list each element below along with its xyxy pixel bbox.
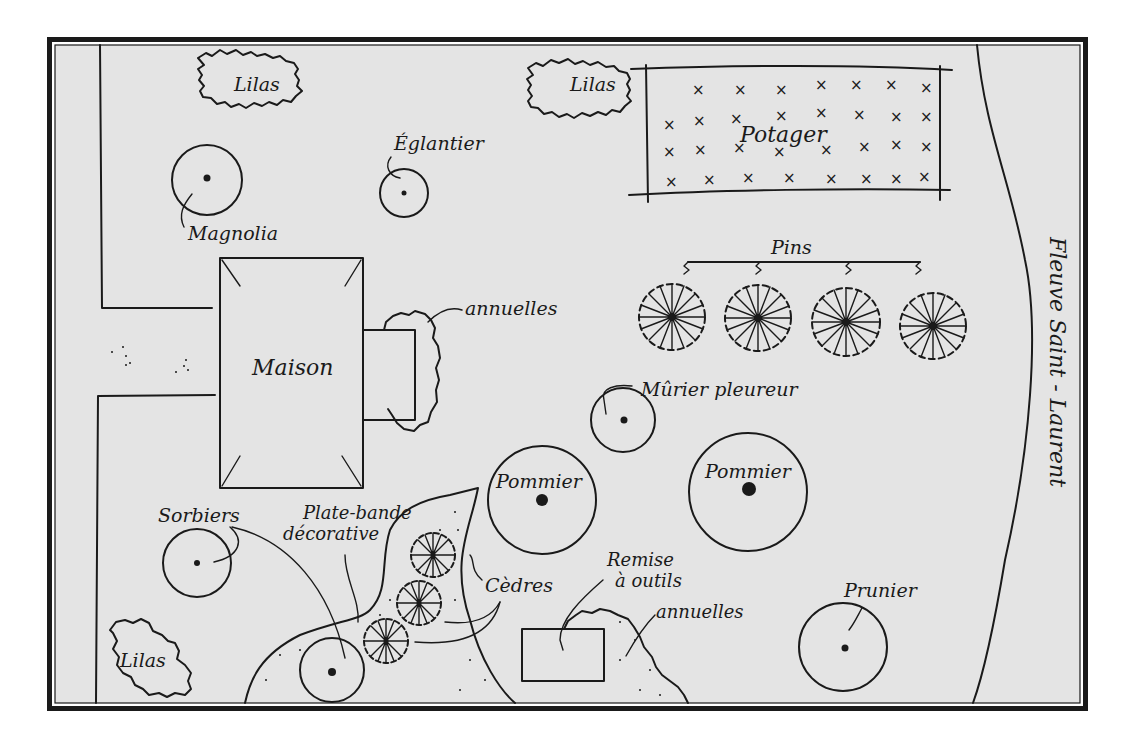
- sorbiers-label: Sorbiers: [158, 504, 240, 526]
- garden-plan: Fleuve Saint - Laurent Lilas Lilas ×××××…: [0, 0, 1134, 743]
- svg-text:×: ×: [825, 170, 838, 188]
- svg-text:×: ×: [918, 168, 931, 186]
- svg-text:×: ×: [890, 108, 903, 126]
- svg-text:×: ×: [693, 112, 706, 130]
- svg-text:×: ×: [890, 170, 903, 188]
- shed-label-line1: Remise: [606, 549, 674, 570]
- svg-text:×: ×: [775, 81, 788, 99]
- svg-text:×: ×: [703, 171, 716, 189]
- pommier-label: Pommier: [704, 460, 793, 482]
- svg-text:×: ×: [920, 108, 933, 126]
- svg-text:×: ×: [665, 173, 678, 191]
- pine-tree: [639, 284, 705, 350]
- lilas-label: Lilas: [119, 649, 166, 671]
- cedres-label: Cèdres: [485, 574, 553, 596]
- annuelles-label: annuelles: [465, 297, 558, 319]
- svg-text:×: ×: [663, 143, 676, 161]
- shed-label-line2: à outils: [615, 570, 682, 591]
- svg-text:×: ×: [783, 169, 796, 187]
- potager-label: Potager: [739, 122, 828, 147]
- svg-text:×: ×: [734, 81, 747, 99]
- svg-text:×: ×: [815, 104, 828, 122]
- svg-text:×: ×: [694, 141, 707, 159]
- cedar-tree: [364, 619, 408, 663]
- house-label: Maison: [251, 355, 333, 380]
- svg-text:×: ×: [663, 116, 676, 134]
- cedar-tree: [397, 581, 441, 625]
- eglantier-label: Églantier: [393, 132, 486, 154]
- murier-label: Mûrier pleureur: [640, 378, 800, 400]
- svg-text:×: ×: [853, 106, 866, 124]
- svg-text:×: ×: [920, 138, 933, 156]
- annuelles-label: annuelles: [656, 601, 744, 622]
- lilas-label: Lilas: [233, 73, 280, 95]
- svg-text:×: ×: [920, 79, 933, 97]
- svg-text:×: ×: [860, 170, 873, 188]
- river-label: Fleuve Saint - Laurent: [1045, 236, 1070, 487]
- svg-text:×: ×: [890, 136, 903, 154]
- prunier-label: Prunier: [843, 579, 919, 601]
- flowerbed-label-line2: décorative: [283, 523, 379, 544]
- svg-text:×: ×: [885, 76, 898, 94]
- pins-label: Pins: [770, 236, 812, 258]
- flowerbed-label-line1: Plate-bande: [302, 502, 412, 523]
- pine-tree: [900, 293, 966, 359]
- pommier-label: Pommier: [495, 470, 584, 492]
- pine-tree: [725, 285, 791, 351]
- svg-text:×: ×: [692, 81, 705, 99]
- svg-text:×: ×: [858, 138, 871, 156]
- pine-tree: [812, 288, 880, 356]
- magnolia-label: Magnolia: [187, 222, 278, 244]
- svg-text:×: ×: [850, 76, 863, 94]
- lilas-label: Lilas: [569, 73, 616, 95]
- cedar-tree: [411, 533, 455, 577]
- svg-text:×: ×: [815, 76, 828, 94]
- svg-text:×: ×: [742, 169, 755, 187]
